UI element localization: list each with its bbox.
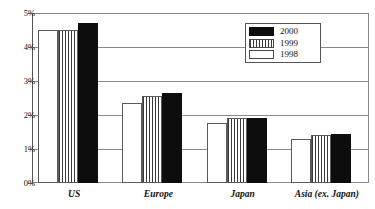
bar-japan-1999 (227, 118, 247, 183)
bar-us-2000 (78, 23, 98, 183)
legend-label-2000: 2000 (280, 27, 298, 36)
x-axis-label-asia-ex-japan: Asia (ex. Japan) (285, 189, 369, 199)
y-tick-mark (28, 183, 33, 184)
legend-swatch-1999 (249, 39, 274, 48)
y-tick-mark (28, 149, 33, 150)
legend-label-1999: 1999 (280, 39, 298, 48)
bar-asia-ex-japan-1998 (291, 139, 311, 183)
legend-item-1999[interactable]: 1999 (249, 38, 317, 50)
y-tick-mark (28, 81, 33, 82)
legend-item-1998[interactable]: 1998 (249, 49, 317, 61)
bar-europe-2000 (162, 93, 182, 183)
x-axis-label-us: US (32, 189, 116, 199)
legend-swatch-1998 (249, 50, 274, 59)
x-axis-label-europe: Europe (116, 189, 200, 199)
bar-us-1998 (38, 30, 58, 183)
bar-europe-1999 (142, 96, 162, 183)
legend-swatch-2000 (249, 27, 274, 36)
bar-asia-ex-japan-1999 (311, 135, 331, 183)
x-axis-label-japan: Japan (201, 189, 285, 199)
chart-legend[interactable]: 200019991998 (245, 23, 321, 63)
bar-japan-2000 (247, 118, 267, 183)
clipped-title (0, 0, 375, 6)
y-tick-mark (28, 47, 33, 48)
bar-europe-1998 (122, 103, 142, 183)
y-axis-line (32, 13, 33, 184)
y-tick-mark (28, 13, 33, 14)
bar-chart: 5%4%3%2%1%0% USEuropeJapanAsia (ex. Japa… (0, 0, 375, 209)
bar-japan-1998 (207, 123, 227, 183)
legend-label-1998: 1998 (280, 50, 298, 59)
bar-asia-ex-japan-2000 (331, 134, 351, 183)
y-tick-mark (28, 115, 33, 116)
legend-item-2000[interactable]: 2000 (249, 26, 317, 38)
bar-us-1999 (58, 30, 78, 183)
